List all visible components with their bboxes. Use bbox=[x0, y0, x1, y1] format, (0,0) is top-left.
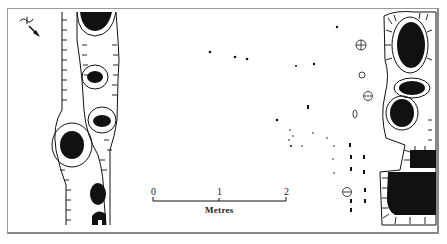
post-holes bbox=[209, 26, 366, 212]
scale-tick-0: 0 bbox=[151, 186, 156, 197]
right-ditch bbox=[380, 12, 436, 226]
ring-features bbox=[343, 40, 373, 197]
scale-unit-label: Metres bbox=[205, 205, 234, 215]
scale-tick-1: 1 bbox=[217, 186, 222, 197]
scale-tick-2: 2 bbox=[284, 186, 289, 197]
scale-bar bbox=[153, 197, 286, 201]
north-arrow-icon bbox=[20, 17, 40, 37]
left-ditch bbox=[52, 12, 119, 225]
